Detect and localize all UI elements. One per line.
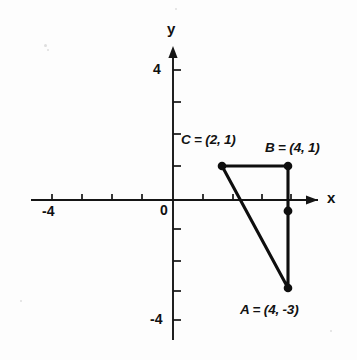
triangle-abc bbox=[222, 166, 288, 288]
point-a-dot bbox=[284, 284, 293, 293]
point-a-label: A = (4, -3) bbox=[240, 302, 298, 317]
point-b-label: B = (4, 1) bbox=[265, 140, 320, 155]
y-axis-ticks bbox=[173, 70, 181, 320]
y-axis-arrowhead bbox=[168, 46, 177, 58]
coordinate-plane-figure: y x 0 4 -4 -4 C = (2, 1) B = (4, 1) A = … bbox=[0, 0, 357, 360]
y-tick-label-4: 4 bbox=[153, 61, 161, 77]
point-b-dot bbox=[284, 162, 293, 171]
x-axis-arrowhead bbox=[306, 195, 318, 204]
marker-on-x-axis-at-4 bbox=[284, 207, 293, 216]
point-c-label: C = (2, 1) bbox=[181, 132, 236, 147]
y-axis-label: y bbox=[167, 20, 175, 37]
x-axis-group bbox=[31, 195, 318, 204]
point-c-dot bbox=[218, 162, 227, 171]
x-tick-label--4: -4 bbox=[42, 203, 54, 219]
x-axis-label: x bbox=[327, 189, 335, 206]
y-tick-label--4: -4 bbox=[150, 311, 162, 327]
plot-canvas bbox=[0, 0, 357, 360]
origin-label: 0 bbox=[160, 202, 168, 218]
y-axis-group bbox=[168, 46, 177, 340]
